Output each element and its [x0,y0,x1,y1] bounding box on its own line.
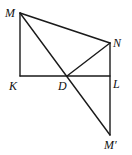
segment-mm-prime [20,13,110,135]
point-label-k: K [9,80,17,92]
point-label-m: M [5,7,15,19]
geometry-diagram: M N K D L M′ [0,0,132,155]
segment-mn [20,13,110,43]
point-label-m-prime: M′ [104,139,117,151]
point-label-d: D [58,80,67,92]
point-label-n: N [113,37,121,49]
segment-nd [67,43,110,76]
point-label-l: L [113,78,120,90]
